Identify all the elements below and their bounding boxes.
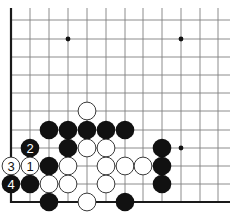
black-stone-icon (21, 175, 40, 194)
black-stone (40, 157, 59, 176)
white-stone (97, 175, 115, 193)
white-stone-icon (134, 157, 152, 175)
black-stone-icon (153, 157, 172, 176)
move-number-label: 2 (26, 141, 33, 156)
white-stone (78, 139, 96, 157)
black-stone-icon (59, 121, 78, 140)
white-stone: 3 (2, 157, 20, 175)
go-board: 2314 (0, 0, 230, 220)
black-stone (97, 121, 116, 140)
black-stone (153, 175, 172, 194)
white-stone-icon (59, 175, 77, 193)
black-stone-icon (40, 157, 59, 176)
white-stone-icon (78, 102, 96, 120)
move-number-label: 4 (7, 177, 14, 192)
star-point-icon (66, 37, 71, 42)
white-stone-icon (97, 157, 115, 175)
black-stone (78, 121, 97, 140)
black-stone (153, 139, 172, 158)
star-point-icon (179, 37, 184, 42)
white-stone-icon (97, 139, 115, 157)
white-stone (59, 157, 77, 175)
move-number-label: 3 (7, 159, 14, 174)
white-stone (78, 102, 96, 120)
black-stone-icon (97, 121, 116, 140)
black-stone (153, 157, 172, 176)
white-stone-icon (40, 175, 58, 193)
black-stone (40, 121, 59, 140)
white-stone-icon (97, 175, 115, 193)
black-stone (116, 193, 135, 212)
white-stone-icon (116, 157, 134, 175)
black-stone (59, 139, 78, 158)
black-stone (40, 193, 59, 212)
black-stone-icon (40, 121, 59, 140)
white-stone-icon (59, 157, 77, 175)
white-stone-icon (78, 193, 96, 211)
move-number-label: 1 (26, 159, 33, 174)
black-stone (116, 121, 135, 140)
black-stone-icon (116, 193, 135, 212)
black-stone-icon (153, 139, 172, 158)
black-stone (59, 121, 78, 140)
white-stone-icon (78, 139, 96, 157)
white-stone (59, 175, 77, 193)
white-stone (40, 175, 58, 193)
black-stone-icon (40, 193, 59, 212)
black-stone-icon (153, 175, 172, 194)
star-point-icon (179, 146, 184, 151)
white-stone (134, 157, 152, 175)
black-stone: 2 (21, 139, 40, 158)
black-stone: 4 (2, 175, 21, 194)
white-stone: 1 (21, 157, 39, 175)
white-stone (78, 193, 96, 211)
black-stone-icon (78, 121, 97, 140)
stones: 2314 (2, 102, 172, 211)
black-stone-icon (59, 139, 78, 158)
black-stone-icon (116, 121, 135, 140)
black-stone (21, 175, 40, 194)
white-stone (97, 157, 115, 175)
white-stone (116, 157, 134, 175)
white-stone (97, 139, 115, 157)
